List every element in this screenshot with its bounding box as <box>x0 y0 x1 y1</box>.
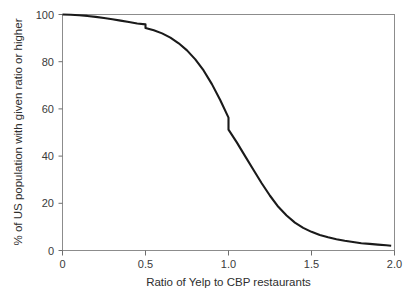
chart-svg: 0 20 40 60 80 100 0 0.5 1.0 1.5 2.0 Rati… <box>0 0 417 296</box>
y-tick-label-100: 100 <box>36 9 54 21</box>
y-tick-label-20: 20 <box>42 197 54 209</box>
y-tick-label-80: 80 <box>42 56 54 68</box>
chart-figure: 0 20 40 60 80 100 0 0.5 1.0 1.5 2.0 Rati… <box>0 0 417 296</box>
y-tick-label-60: 60 <box>42 103 54 115</box>
x-tick-label-1-0: 1.0 <box>221 258 236 270</box>
x-axis: 0 0.5 1.0 1.5 2.0 <box>59 251 402 271</box>
y-tick-label-0: 0 <box>48 245 54 257</box>
plot-frame <box>63 15 395 251</box>
y-axis: 0 20 40 60 80 100 <box>36 9 63 257</box>
y-axis-title: % of US population with given ratio or h… <box>12 18 24 245</box>
x-tick-label-2-0: 2.0 <box>387 258 402 270</box>
x-axis-title: Ratio of Yelp to CBP restaurants <box>146 276 311 288</box>
x-tick-label-0: 0 <box>59 258 65 270</box>
x-tick-label-0-5: 0.5 <box>138 258 153 270</box>
x-tick-label-1-5: 1.5 <box>304 258 319 270</box>
data-series-line <box>63 15 392 246</box>
y-tick-label-40: 40 <box>42 150 54 162</box>
